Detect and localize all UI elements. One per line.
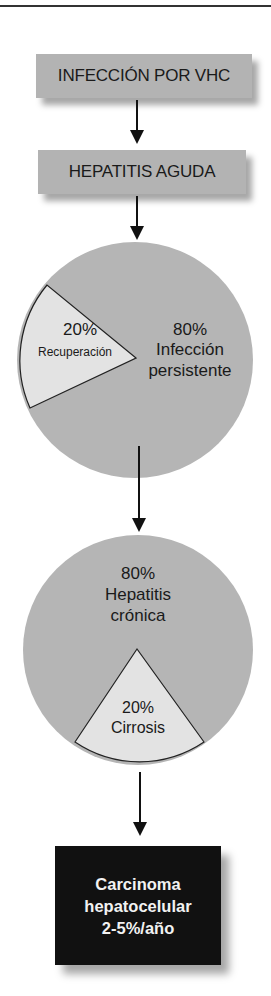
arrow-down-3 — [132, 446, 146, 532]
pie2-small-pct: 20% — [98, 699, 178, 717]
final-line-3: 2-5%/año — [102, 917, 174, 939]
pie2-large-pct: 80% — [98, 564, 178, 584]
pie1-small-pct: 20% — [40, 320, 120, 340]
pie1-large-label-1: Infección — [140, 340, 240, 360]
pie1-large-label-2: persistente — [135, 361, 245, 381]
final-line-2: hepatocelular — [84, 895, 191, 917]
box-carcinoma-hepatocelular: Carcinoma hepatocelular 2-5%/año — [55, 846, 221, 965]
pie2-large-label-1: Hepatitis — [88, 585, 188, 605]
pie2-large-label-2: crónica — [88, 606, 188, 626]
pie2-small-label: Cirrosis — [93, 719, 183, 737]
pie1-large-pct: 80% — [145, 320, 235, 340]
arrow-down-4 — [133, 772, 147, 836]
pie1-small-label: Recuperación — [20, 345, 130, 359]
final-line-1: Carcinoma — [95, 873, 180, 895]
